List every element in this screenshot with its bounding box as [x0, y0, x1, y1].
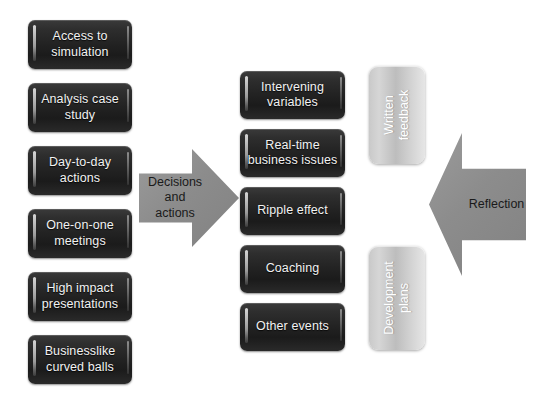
middle-box-other-events: Other events: [240, 303, 345, 351]
left-box-day-to-day-actions: Day-to-day actions: [28, 146, 132, 195]
middle-box-label: Other events: [250, 319, 335, 334]
left-box-businesslike-curved-balls: Businesslike curved balls: [28, 335, 132, 384]
middle-box-label: Real-time business issues: [242, 138, 344, 169]
middle-box-intervening-variables: Intervening variables: [240, 71, 345, 119]
left-box-label: Access to simulation: [45, 29, 114, 60]
arrow-decisions-and-actions: Decisions and actions: [139, 149, 239, 247]
middle-box-label: Coaching: [260, 261, 326, 276]
left-box-label: Businesslike curved balls: [39, 344, 122, 375]
left-box-label: High impact presentations: [36, 281, 124, 312]
right-box-label: Development plans: [382, 261, 412, 335]
diagram-canvas: Access to simulation Analysis case study…: [0, 0, 545, 402]
middle-box-real-time-business-issues: Real-time business issues: [240, 129, 345, 177]
arrow-label: Decisions and actions: [148, 175, 202, 222]
arrow-label: Reflection: [469, 197, 525, 213]
left-box-label: One-on-one meetings: [40, 218, 120, 249]
middle-box-ripple-effect: Ripple effect: [240, 187, 345, 235]
right-box-label: Written feedback: [382, 90, 412, 141]
middle-box-label: Ripple effect: [251, 203, 334, 218]
left-box-high-impact-presentations: High impact presentations: [28, 272, 132, 321]
left-box-label: Day-to-day actions: [43, 155, 117, 186]
left-box-analysis-case-study: Analysis case study: [28, 83, 132, 132]
middle-box-label: Intervening variables: [255, 80, 330, 111]
right-box-development-plans: Development plans: [369, 246, 425, 350]
left-box-one-on-one-meetings: One-on-one meetings: [28, 209, 132, 258]
middle-box-coaching: Coaching: [240, 245, 345, 293]
left-box-label: Analysis case study: [35, 92, 125, 123]
arrow-reflection: Reflection: [429, 133, 526, 276]
right-box-written-feedback: Written feedback: [369, 66, 425, 164]
left-box-access-to-simulation: Access to simulation: [28, 20, 132, 69]
